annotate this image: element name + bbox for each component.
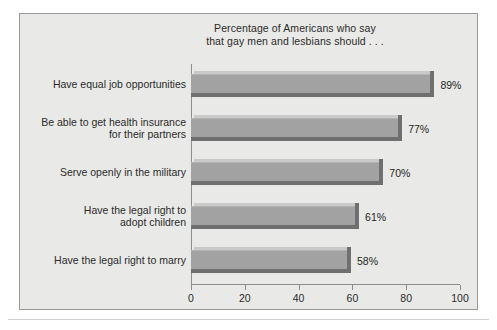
category-label-line: Serve openly in the military bbox=[60, 166, 186, 178]
category-label-line: Have the legal right to marry bbox=[54, 254, 186, 266]
category-label-line: Have equal job opportunities bbox=[53, 78, 186, 90]
chart-title: Percentage of Americans who say that gay… bbox=[150, 22, 440, 48]
x-axis-tick-mark bbox=[299, 285, 300, 290]
category-label: Be able to get health insurancefor their… bbox=[41, 116, 186, 140]
category-label: Serve openly in the military bbox=[60, 166, 186, 178]
category-label-line: adopt children bbox=[84, 216, 186, 228]
x-axis-tick-label: 100 bbox=[440, 292, 480, 304]
footer-rule bbox=[8, 319, 489, 320]
category-label: Have the legal right to marry bbox=[54, 254, 186, 266]
x-axis-tick-mark bbox=[460, 285, 461, 290]
bar-value-label: 61% bbox=[365, 211, 386, 223]
chart-panel: Percentage of Americans who say that gay… bbox=[19, 13, 478, 310]
chart-title-line-1: Percentage of Americans who say bbox=[150, 22, 440, 35]
category-label: Have equal job opportunities bbox=[53, 78, 186, 90]
bar-shadow bbox=[191, 269, 348, 273]
plot-area: 89%77%70%61%58% 020406080100 bbox=[191, 64, 461, 284]
category-label-line: Have the legal right to bbox=[84, 204, 186, 216]
chart-figure: Percentage of Americans who say that gay… bbox=[0, 0, 497, 330]
x-axis-tick-mark bbox=[191, 285, 192, 290]
x-axis-tick-label: 80 bbox=[386, 292, 426, 304]
chart-title-line-2: that gay men and lesbians should . . . bbox=[150, 35, 440, 48]
category-label-line: for their partners bbox=[41, 128, 186, 140]
x-axis-line bbox=[191, 284, 460, 285]
category-axis-labels: Have equal job opportunitiesBe able to g… bbox=[38, 64, 186, 284]
bar-shadow bbox=[191, 93, 431, 97]
x-axis-tick-label: 60 bbox=[332, 292, 372, 304]
category-label: Have the legal right toadopt children bbox=[84, 204, 186, 228]
bar-shadow bbox=[191, 137, 399, 141]
bar-shadow bbox=[191, 225, 356, 229]
bar-value-label: 58% bbox=[357, 255, 378, 267]
x-axis-tick-label: 0 bbox=[171, 292, 211, 304]
bar-shadow bbox=[191, 181, 380, 185]
bar-value-label: 77% bbox=[408, 123, 429, 135]
x-axis-tick-mark bbox=[406, 285, 407, 290]
x-axis-tick-mark bbox=[352, 285, 353, 290]
bar-value-label: 70% bbox=[389, 167, 410, 179]
x-axis-tick-label: 20 bbox=[225, 292, 265, 304]
bar-value-label: 89% bbox=[440, 79, 461, 91]
x-axis-tick-mark bbox=[245, 285, 246, 290]
category-label-line: Be able to get health insurance bbox=[41, 116, 186, 128]
x-axis-tick-label: 40 bbox=[279, 292, 319, 304]
